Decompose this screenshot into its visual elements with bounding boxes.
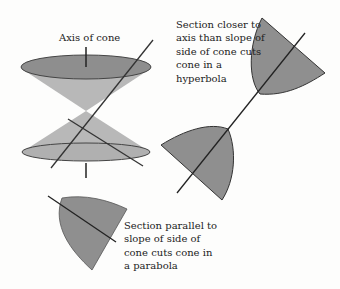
parabola-caption: Section parallel to slope of side of con… [124, 219, 217, 273]
double-cone [21, 40, 153, 178]
parabola-section [48, 196, 127, 270]
axis-of-cone-label: Axis of cone [59, 31, 120, 44]
hyperbola-caption: Section closer to axis than slope of sid… [176, 18, 265, 85]
parabola-shape [59, 197, 127, 270]
hyperbola-lower-branch [161, 126, 234, 200]
conic-sections-diagram: Axis of cone Section closer to axis than… [0, 0, 340, 289]
